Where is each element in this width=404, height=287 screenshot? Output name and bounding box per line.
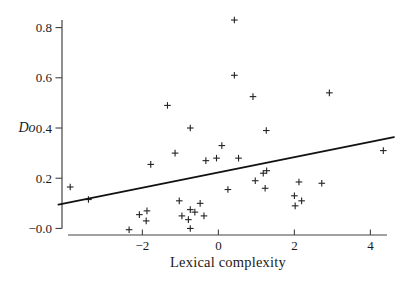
scatter-plot-figure: 0.80.60.40.2−0.0−2024 Do Lexical complex… <box>0 0 404 287</box>
x-tick-label: 4 <box>367 238 374 253</box>
x-axis-title: Lexical complexity <box>118 254 338 271</box>
x-tick-label: 2 <box>291 238 298 253</box>
y-tick-label: −0.0 <box>28 221 52 236</box>
y-tick-label: 0.8 <box>36 20 52 35</box>
y-axis-title: Do <box>12 120 42 136</box>
x-tick-label: 0 <box>215 238 222 253</box>
x-tick-label: −2 <box>135 238 149 253</box>
y-tick-label: 0.2 <box>36 171 52 186</box>
trend-line <box>58 137 394 205</box>
scatter-plot-canvas: 0.80.60.40.2−0.0−2024 <box>0 0 404 287</box>
y-tick-label: 0.6 <box>36 70 53 85</box>
